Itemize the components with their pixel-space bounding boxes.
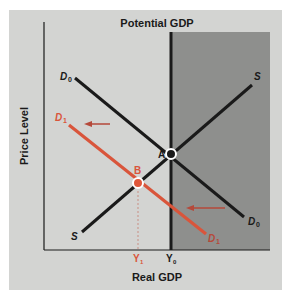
point-b-label: B <box>134 165 141 176</box>
svg-text:0: 0 <box>256 221 260 228</box>
y0-tick-label: Y 0 <box>166 253 177 265</box>
d0-top-label: D 0 <box>60 71 72 83</box>
y1-tick-label: Y 1 <box>133 253 144 265</box>
svg-text:0: 0 <box>68 76 72 83</box>
svg-text:1: 1 <box>63 117 67 124</box>
svg-text:Y: Y <box>166 253 173 264</box>
s-top-label: S <box>254 71 261 82</box>
ad-as-chart: Potential GDP Real GDP Price Level D 0 D… <box>0 0 292 298</box>
y-axis-label: Price Level <box>18 107 30 165</box>
svg-text:D: D <box>208 233 215 244</box>
svg-text:1: 1 <box>140 259 144 265</box>
point-b-marker <box>133 178 143 188</box>
shift-arrow-top <box>84 121 110 127</box>
svg-text:1: 1 <box>216 238 220 245</box>
point-a-marker <box>166 149 176 159</box>
svg-text:0: 0 <box>173 259 177 265</box>
s-bottom-label: S <box>71 231 78 242</box>
chart-title: Potential GDP <box>120 17 193 29</box>
svg-text:D: D <box>248 216 255 227</box>
d1-top-label: D 1 <box>55 112 67 124</box>
svg-text:Y: Y <box>133 253 140 264</box>
svg-text:D: D <box>55 112 62 123</box>
x-axis-label: Real GDP <box>132 271 182 283</box>
svg-text:D: D <box>60 71 67 82</box>
point-a-label: A <box>158 149 165 160</box>
